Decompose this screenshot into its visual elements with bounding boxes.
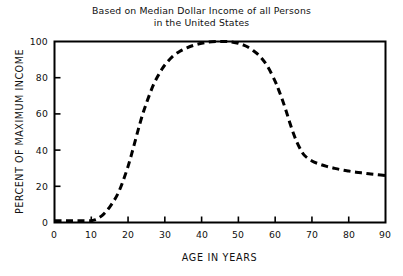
chart-figure: Based on Median Dollar Income of all Per… [0,0,403,276]
plot-area [0,0,403,276]
income-curve [55,41,386,220]
plot-frame [55,42,386,223]
